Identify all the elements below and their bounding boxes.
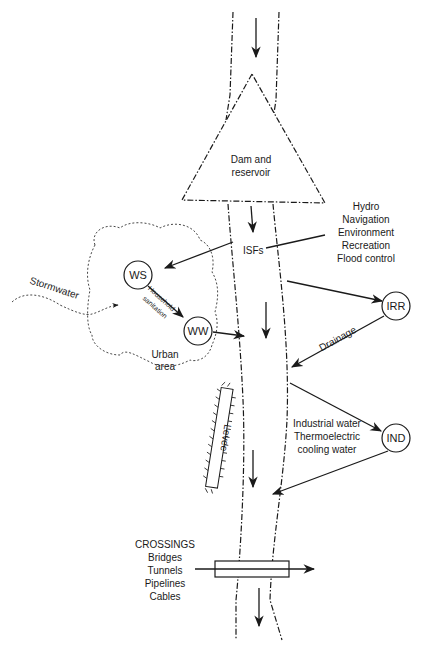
ind-label: IND	[387, 432, 406, 444]
instream-use-hydro: Hydro	[353, 201, 380, 212]
ws-label: WS	[129, 269, 147, 281]
isf-link-line	[266, 235, 325, 248]
instream-use-flood-control: Flood control	[337, 253, 395, 264]
ww-node: WW	[184, 317, 212, 345]
urban-area-label-1: Urban	[151, 349, 178, 360]
crossing-tunnels: Tunnels	[147, 565, 182, 576]
urban-area-label-2: area	[155, 361, 175, 372]
ind-node: IND	[382, 424, 410, 452]
irr-label: IRR	[387, 300, 406, 312]
instream-use-recreation: Recreation	[342, 240, 390, 251]
instream-use-navigation: Navigation	[342, 214, 389, 225]
instream-uses-list: Hydro Navigation Environment Recreation …	[337, 201, 395, 264]
crossing-bridges: Bridges	[148, 552, 182, 563]
ind-return-arrow	[273, 451, 388, 494]
reservoir-label-2: reservoir	[232, 167, 272, 178]
reservoir-label-1: Dam and	[231, 154, 272, 165]
crossing-pipelines: Pipelines	[145, 578, 186, 589]
withdrawal-to-ws-arrow	[165, 242, 233, 268]
withdrawal-to-irr-arrow	[287, 281, 382, 301]
ws-node: WS	[124, 261, 152, 289]
instream-use-environment: Environment	[338, 227, 394, 238]
stormwater-flow	[12, 295, 118, 315]
stormwater-label: Stormwater	[28, 275, 81, 301]
irr-node: IRR	[382, 292, 410, 320]
industrial-use-3: cooling water	[298, 444, 358, 455]
industrial-use-1: Industrial water	[293, 418, 361, 429]
flow-arrow-1	[251, 206, 253, 232]
urban-area: Stormwater Urban area	[12, 223, 218, 372]
industrial-use-2: Thermoelectric	[294, 431, 360, 442]
dam-reservoir: Dam and reservoir	[182, 74, 325, 203]
water-system-diagram: Dam and reservoir ISFs Hydro Navigation …	[0, 0, 427, 646]
crossings-title: CROSSINGS	[135, 539, 195, 550]
levee: Levee	[201, 381, 240, 495]
crossing-cables: Cables	[149, 591, 180, 602]
industrial-uses-list: Industrial water Thermoelectric cooling …	[293, 418, 361, 455]
crossings: CROSSINGS Bridges Tunnels Pipelines Cabl…	[135, 539, 314, 602]
isf-label: ISFs	[243, 245, 264, 256]
ww-label: WW	[188, 325, 209, 337]
upstream-channel	[226, 12, 279, 120]
drainage-label: Drainage	[317, 324, 358, 354]
